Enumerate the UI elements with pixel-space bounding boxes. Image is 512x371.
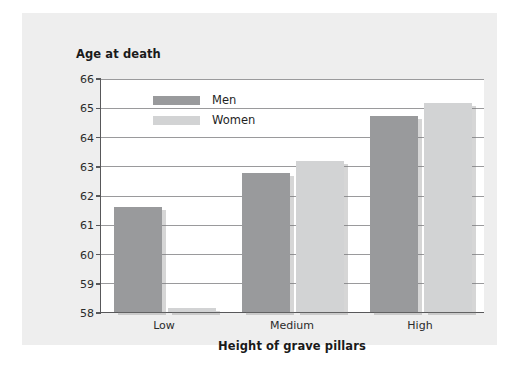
legend-label-men: Men (212, 93, 236, 107)
y-tick-label-64: 64 (64, 131, 94, 144)
figure-panel: Age at death 585960616263646566 LowMediu… (22, 13, 497, 345)
y-tick-mark-64 (96, 137, 101, 139)
y-tick-mark-63 (96, 166, 101, 168)
y-tick-label-62: 62 (64, 190, 94, 203)
bar-low-men[interactable] (114, 207, 162, 312)
y-tick-mark-60 (96, 254, 101, 256)
y-tick-mark-58 (96, 312, 101, 314)
bar-high-men[interactable] (370, 116, 418, 312)
gridline-66 (101, 79, 484, 80)
y-tick-mark-61 (96, 225, 101, 227)
legend-swatch-women-icon (153, 116, 200, 125)
legend-item-men: Men (153, 91, 255, 109)
y-tick-label-60: 60 (64, 248, 94, 261)
y-tick-label-61: 61 (64, 219, 94, 232)
y-tick-label-58: 58 (64, 307, 94, 320)
bar-medium-men[interactable] (242, 173, 290, 312)
y-tick-label-66: 66 (64, 73, 94, 86)
y-tick-label-65: 65 (64, 102, 94, 115)
x-axis-title: Height of grave pillars (100, 339, 484, 353)
x-tick-label-medium: Medium (270, 319, 314, 332)
y-axis-title: Age at death (76, 47, 161, 61)
legend-label-women: Women (212, 113, 255, 127)
legend-item-women: Women (153, 111, 255, 129)
x-axis-tick-labels: LowMediumHigh (100, 319, 484, 337)
x-tick-label-low: Low (153, 319, 175, 332)
bar-low-women[interactable] (168, 308, 216, 312)
y-tick-label-59: 59 (64, 277, 94, 290)
bar-high-women[interactable] (424, 103, 472, 312)
x-tick-label-high: High (407, 319, 432, 332)
y-tick-mark-66 (96, 78, 101, 80)
y-tick-mark-65 (96, 108, 101, 110)
y-tick-mark-59 (96, 283, 101, 285)
y-axis-tick-labels: 585960616263646566 (64, 79, 94, 313)
y-tick-mark-62 (96, 195, 101, 197)
bar-medium-women[interactable] (296, 161, 344, 312)
y-tick-label-63: 63 (64, 160, 94, 173)
legend-swatch-men-icon (153, 96, 200, 105)
chart-legend: Men Women (153, 91, 255, 131)
